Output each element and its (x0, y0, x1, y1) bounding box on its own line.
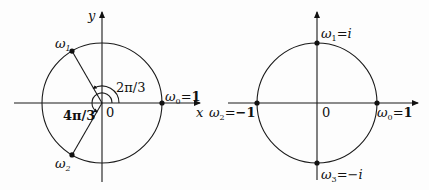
left-figure: y x 0 ω1 ω2 ω0=1 2π/3 4π/3 (14, 8, 204, 182)
right-label-omega3: ω3=−i (321, 167, 363, 184)
roots-of-unity-diagram: y x 0 ω1 ω2 ω0=1 2π/3 4π/3 0 ω1=i ω2=−1 … (0, 0, 429, 190)
right-label-omega0: ω0=1 (377, 105, 413, 122)
right-point-omega1 (314, 40, 319, 45)
left-label-omega1: ω1 (55, 36, 71, 53)
y-axis-label: y (87, 8, 96, 23)
right-figure: 0 ω1=i ω2=−1 ω0=1 ω3=−i (209, 12, 418, 184)
left-label-omega0: ω0=1 (165, 89, 201, 106)
left-label-omega2: ω2 (55, 156, 71, 173)
angle-label-2pi-3: 2π/3 (116, 80, 145, 95)
left-point-omega2 (69, 152, 74, 157)
angle-label-4pi-3: 4π/3 (63, 108, 95, 123)
right-origin-label: 0 (322, 105, 330, 120)
left-point-omega0 (159, 100, 164, 105)
x-axis-label: x (196, 105, 204, 120)
right-label-omega1: ω1=i (321, 26, 352, 43)
right-label-omega2: ω2=−1 (209, 105, 256, 122)
right-point-omega3 (314, 160, 319, 165)
left-origin-label: 0 (106, 105, 114, 120)
left-ray-omega1 (72, 51, 102, 103)
